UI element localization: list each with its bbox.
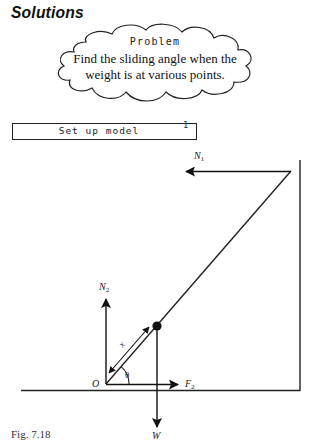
theta-label: θ (125, 371, 129, 380)
weight-point-dot (152, 321, 161, 330)
ladder-line (106, 171, 291, 384)
origin-label: O (92, 379, 99, 389)
weight-label: W (152, 431, 160, 441)
figure-caption: Fig. 7.18 (11, 428, 50, 440)
ladder-force-diagram (0, 0, 311, 444)
n1-label: N1 (194, 151, 204, 163)
n2-label: N2 (99, 282, 109, 294)
f2-label: F2 (185, 379, 195, 391)
x-distance-arrow (109, 327, 149, 373)
